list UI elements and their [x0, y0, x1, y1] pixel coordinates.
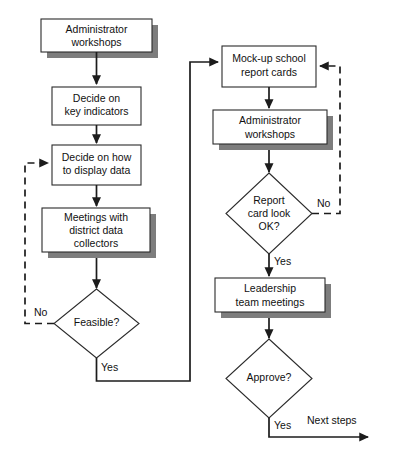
node-feasible[interactable]: Feasible? — [54, 289, 139, 358]
node-label-line2: workshops — [70, 36, 121, 48]
edge-label-report-card-yes: Yes — [274, 255, 291, 267]
flowchart-svg: Administrator workshops Decide on key in… — [0, 0, 404, 462]
node-display-data[interactable]: Decide on how to display data — [52, 145, 141, 185]
flowchart-canvas: Administrator workshops Decide on key in… — [0, 0, 404, 462]
node-meetings[interactable]: Meetings with district data collectors — [42, 208, 156, 258]
edge-label-approve-yes: Yes — [274, 419, 291, 431]
node-label-line1: Decide on — [73, 92, 120, 104]
node-label-line1: Meetings with — [64, 211, 128, 223]
node-label-line1: Approve? — [247, 371, 292, 383]
node-label-line2: to display data — [63, 164, 131, 176]
edge-label-feasible-yes: Yes — [101, 361, 118, 373]
node-approve[interactable]: Approve? — [226, 339, 312, 418]
node-label-line1: Administrator — [66, 23, 128, 35]
node-label-line1: Mock-up school — [232, 52, 306, 64]
node-admin-workshops-2[interactable]: Administrator workshops — [213, 110, 333, 150]
terminal-label-next-steps: Next steps — [307, 414, 357, 426]
node-label-line3: collectors — [74, 237, 118, 249]
node-admin-workshops-1[interactable]: Administrator workshops — [41, 19, 158, 58]
node-key-indicators[interactable]: Decide on key indicators — [52, 87, 141, 125]
node-label-line2: card look — [248, 207, 291, 219]
node-label-line1: Feasible? — [74, 316, 120, 328]
edge-label-report-card-no: No — [317, 197, 331, 209]
node-label-line1: Decide on how — [62, 151, 132, 163]
node-label-line2: district data — [69, 224, 123, 236]
edge-label-feasible-no: No — [34, 306, 48, 318]
node-label-line3: OK? — [258, 220, 279, 232]
node-label-line1: Leadership — [244, 282, 296, 294]
node-label-line1: Report — [253, 194, 285, 206]
node-mockup-cards[interactable]: Mock-up school report cards — [222, 46, 316, 87]
node-label-line2: workshops — [244, 128, 295, 140]
node-label-line2: key indicators — [64, 105, 128, 117]
node-label-line1: Administrator — [239, 114, 301, 126]
node-leadership-meetings[interactable]: Leadership team meetings — [215, 278, 331, 318]
node-report-card-ok[interactable]: Report card look OK? — [226, 173, 312, 254]
node-label-line2: report cards — [241, 66, 297, 78]
node-label-line2: team meetings — [236, 296, 305, 308]
